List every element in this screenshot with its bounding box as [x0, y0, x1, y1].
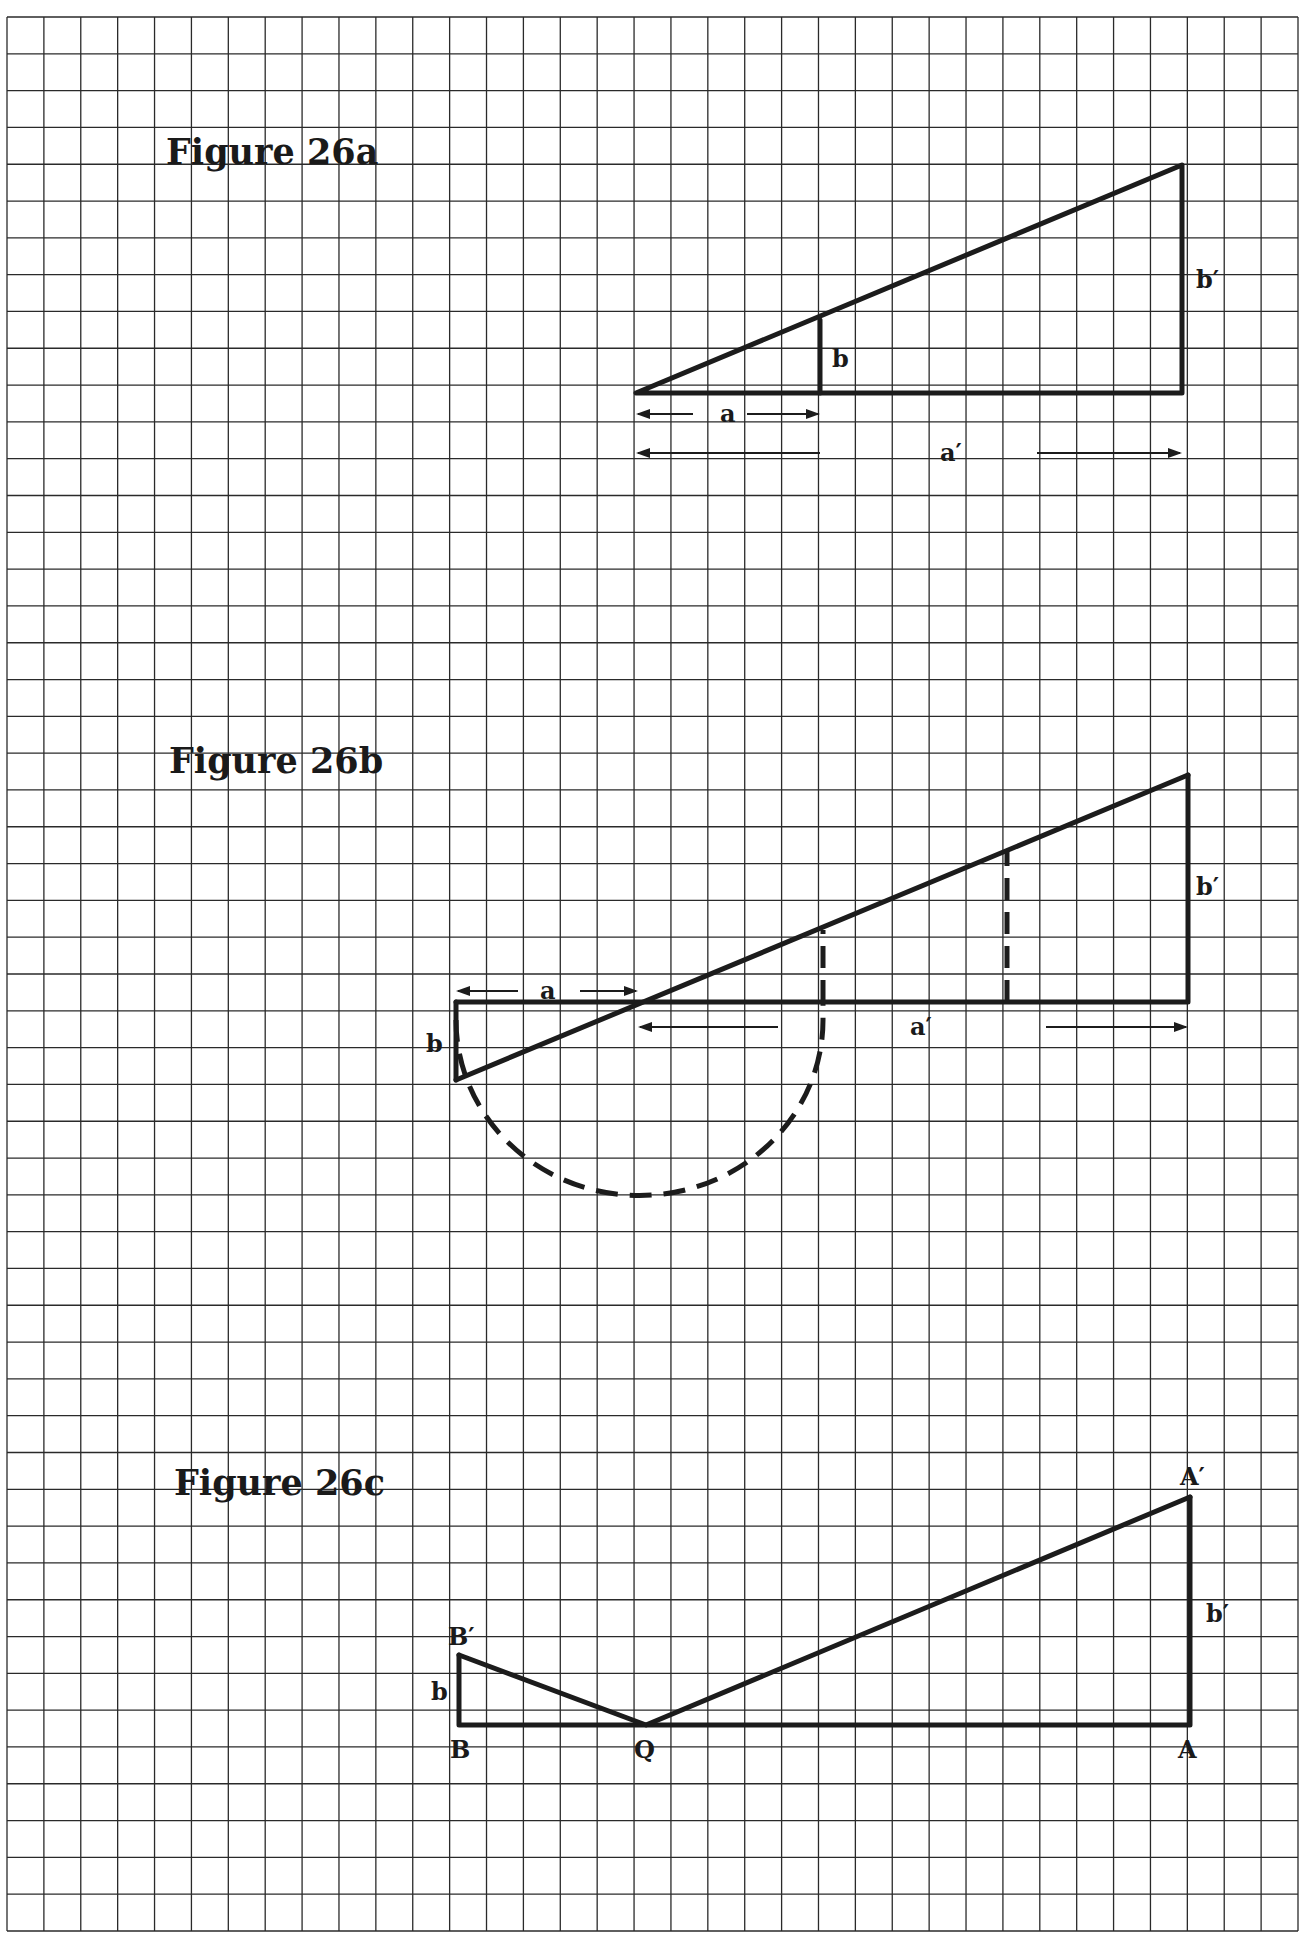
figure-26c: Figure 26c B′ b B Q A A′ b′	[174, 1462, 1229, 1764]
segments-via-q	[459, 1497, 1190, 1725]
arrowhead-left-icon	[456, 986, 470, 996]
label-a-prime: a′	[910, 1012, 932, 1041]
label-a-prime: a′	[940, 438, 962, 467]
figure-26b-title: Figure 26b	[169, 740, 383, 781]
label-b-point: B	[450, 1735, 470, 1764]
grid-lines	[7, 17, 1298, 1931]
arrowhead-right-icon	[1174, 1022, 1188, 1032]
label-q-point: Q	[634, 1735, 655, 1764]
figure-26a-title: Figure 26a	[166, 131, 378, 172]
dashed-semicircle	[456, 1002, 823, 1195]
label-b: b	[426, 1029, 443, 1058]
arrowhead-right-icon	[1168, 448, 1182, 458]
arrowhead-right-icon	[624, 986, 638, 996]
label-a-point: A	[1177, 1735, 1197, 1764]
label-b-prime-point: B′	[448, 1622, 475, 1651]
label-b-prime: b′	[1196, 265, 1219, 294]
arrowhead-left-icon	[636, 409, 650, 419]
label-b: b	[431, 1677, 448, 1706]
label-a: a	[540, 976, 556, 1005]
label-b: b	[832, 344, 849, 373]
large-triangle	[636, 165, 1182, 393]
graph-paper-sheet: Figure 26a b b′ a a′ Figure 26b b b′	[0, 0, 1310, 1942]
arrowhead-left-icon	[636, 448, 650, 458]
baseline-and-perpendiculars	[459, 1497, 1190, 1725]
figure-26a: Figure 26a b b′ a a′	[166, 131, 1219, 467]
label-b-prime: b′	[1196, 872, 1219, 901]
figure-26c-title: Figure 26c	[174, 1462, 385, 1503]
label-a-prime-point: A′	[1179, 1462, 1205, 1491]
arrowhead-left-icon	[638, 1022, 652, 1032]
label-a: a	[720, 399, 736, 428]
label-b-prime: b′	[1206, 1599, 1229, 1628]
figure-26b: Figure 26b b b′ a a′	[169, 740, 1219, 1195]
